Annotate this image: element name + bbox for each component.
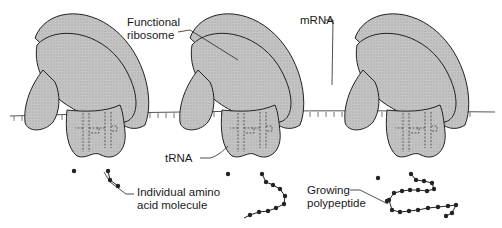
label-line: Functional <box>127 16 180 29</box>
label-polypeptide: Growing polypeptide <box>307 184 366 210</box>
label-line: Growing <box>307 184 366 197</box>
label-trna: tRNA <box>165 152 192 165</box>
label-line: ribosome <box>127 29 180 42</box>
diagram-canvas <box>0 0 502 228</box>
label-functional-ribosome: Functional ribosome <box>127 16 180 42</box>
label-amino-acid: Individual amino acid molecule <box>137 186 220 212</box>
amino-acids-stage-2 <box>226 172 287 217</box>
ribosome-stage-3 <box>345 14 469 157</box>
label-line: acid molecule <box>137 199 220 212</box>
leader-trna <box>200 146 228 158</box>
amino-acids-stage-3 <box>376 172 458 218</box>
leader-mrna <box>325 20 333 85</box>
label-mrna: mRNA <box>300 14 334 27</box>
label-line: Individual amino <box>137 186 220 199</box>
amino-acids-stage-1 <box>72 169 120 188</box>
label-line: polypeptide <box>307 197 366 210</box>
